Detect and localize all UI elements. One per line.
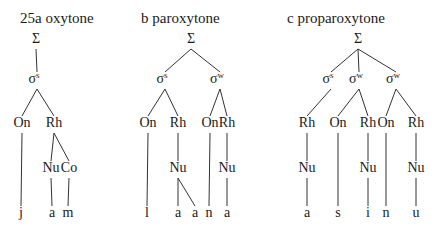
panel-b: b paroxytoneΣσsσwOnRhOnRhNuNulaana <box>139 10 235 220</box>
tree-edge <box>37 89 54 116</box>
nucleus-node: Nu <box>359 160 376 175</box>
rhyme-node: Rh <box>360 115 376 130</box>
syllable-weak-node: σw <box>210 70 225 86</box>
rhyme-node: Rh <box>170 115 186 130</box>
syllable-tree-diagram: 25a oxytoneΣσsOnRhNuCojamb paroxytoneΣσs… <box>0 0 434 233</box>
segment-m: m <box>63 205 74 220</box>
onset-node: On <box>377 115 394 130</box>
segment-l: l <box>145 205 149 220</box>
tree-edge <box>191 49 220 72</box>
syllable-strong-node: σs <box>28 70 40 86</box>
tree-edge <box>22 89 37 116</box>
tree-edge <box>54 133 69 161</box>
foot-node: Σ <box>187 31 195 46</box>
tree-edge <box>358 49 396 72</box>
coda-node: Co <box>61 160 77 175</box>
segment-a: a <box>175 205 182 220</box>
tree-edge <box>359 89 368 116</box>
tree-edge <box>338 89 359 116</box>
rhyme-node: Rh <box>299 115 315 130</box>
tree-edge <box>178 178 195 206</box>
segment-a: a <box>192 205 199 220</box>
tree-edge <box>51 133 54 161</box>
tree-edge <box>21 133 22 206</box>
segment-n: n <box>206 205 213 220</box>
foot-node: Σ <box>354 31 362 46</box>
segment-u: u <box>413 205 420 220</box>
nucleus-node: Nu <box>407 160 424 175</box>
segment-s: s <box>335 205 340 220</box>
tree-labels: 25a oxytoneΣσsOnRhNuCojamb paroxytoneΣσs… <box>13 10 424 220</box>
rhyme-node: Rh <box>408 115 424 130</box>
nucleus-node: Nu <box>218 160 235 175</box>
tree-edge <box>36 49 37 72</box>
segment-a: a <box>304 205 311 220</box>
tree-edge <box>386 89 396 116</box>
segment-n: n <box>383 205 390 220</box>
segment-a: a <box>224 205 231 220</box>
tree-edge <box>307 89 331 116</box>
onset-node: On <box>201 115 218 130</box>
syllable-weak-node: σw <box>349 70 364 86</box>
nucleus-node: Nu <box>298 160 315 175</box>
segment-i: i <box>366 205 370 220</box>
tree-edge <box>220 89 227 116</box>
onset-node: On <box>139 115 156 130</box>
nucleus-node: Nu <box>169 160 186 175</box>
panel-c: c proparoxytoneΣσsσwσwRhOnRhOnRhNuNuNuas… <box>287 10 425 220</box>
tree-edge <box>51 178 52 206</box>
syllable-strong-node: σs <box>322 70 334 86</box>
segment-j: j <box>18 205 23 220</box>
tree-edge <box>331 49 358 72</box>
tree-edge <box>396 89 416 116</box>
tree-edge <box>209 133 210 206</box>
nucleus-node: Nu <box>42 160 59 175</box>
tree-edge <box>210 89 220 116</box>
tree-edge <box>147 133 148 206</box>
syllable-weak-node: σw <box>386 70 401 86</box>
panel-title: b paroxytone <box>141 10 220 26</box>
tree-edge <box>165 89 178 116</box>
onset-node: On <box>329 115 346 130</box>
panel-title: 25a oxytone <box>20 10 94 26</box>
panel-a: 25a oxytoneΣσsOnRhNuCojam <box>13 10 94 220</box>
rhyme-node: Rh <box>219 115 235 130</box>
tree-edge <box>358 49 359 72</box>
tree-edge <box>68 178 69 206</box>
syllable-strong-node: σs <box>156 70 168 86</box>
segment-a: a <box>49 205 56 220</box>
tree-edge <box>148 89 165 116</box>
foot-node: Σ <box>32 31 40 46</box>
onset-node: On <box>13 115 30 130</box>
rhyme-node: Rh <box>46 115 62 130</box>
panel-title: c proparoxytone <box>287 10 385 26</box>
tree-edge <box>165 49 191 72</box>
